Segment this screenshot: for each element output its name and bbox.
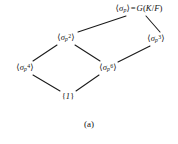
- node-label-sigma-p-3: ⟨σp3⟩: [146, 34, 166, 44]
- node-label-sigma-p-6: ⟨σp6⟩: [98, 63, 118, 73]
- edge-sigma-p-4-to-trivial: [33, 75, 60, 91]
- node-label-sigma-p-2: ⟨σp2⟩: [56, 33, 76, 43]
- edge-sigma-p-2-to-sigma-p-4: [33, 45, 57, 61]
- edge-sigma-p-2-to-sigma-p-6: [75, 45, 100, 61]
- node-label-sigma-p-4: ⟨σp4⟩: [15, 63, 35, 73]
- angle-bracket-close: ⟩: [71, 32, 74, 42]
- subgroup-lattice-figure: ⟨σp⟩=G(K/F) ⟨σp2⟩ ⟨σp3⟩ ⟨σp4⟩ ⟨σp6⟩ {1} …: [0, 0, 178, 144]
- angle-bracket-close: ⟩: [161, 33, 164, 43]
- edge-sigma-p-6-to-trivial: [76, 75, 99, 91]
- paren-close: ): [160, 3, 163, 13]
- edge-top-to-sigma-p-2: [78, 16, 126, 32]
- angle-bracket-close: ⟩: [113, 62, 116, 72]
- node-label-trivial-group: {1}: [61, 92, 76, 101]
- angle-bracket-close: ⟩: [30, 62, 33, 72]
- edge-top-to-sigma-p-3: [146, 16, 160, 32]
- brace-close: }: [70, 91, 74, 101]
- node-label-sigma-p-full: ⟨σp⟩=G(K/F): [114, 4, 163, 14]
- edge-sigma-p-3-to-sigma-p-6: [118, 46, 150, 62]
- figure-caption: (a): [0, 119, 178, 129]
